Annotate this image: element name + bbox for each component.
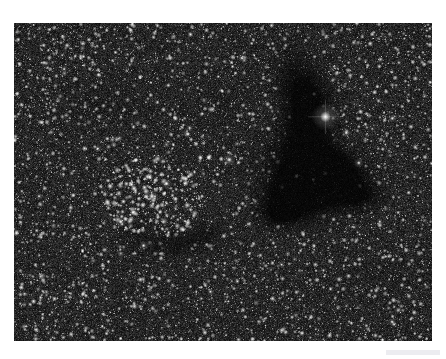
header-strip [0, 0, 446, 14]
footer-gray-bar [386, 350, 440, 355]
astronomy-photo [14, 23, 432, 341]
star-field-canvas [14, 23, 432, 341]
